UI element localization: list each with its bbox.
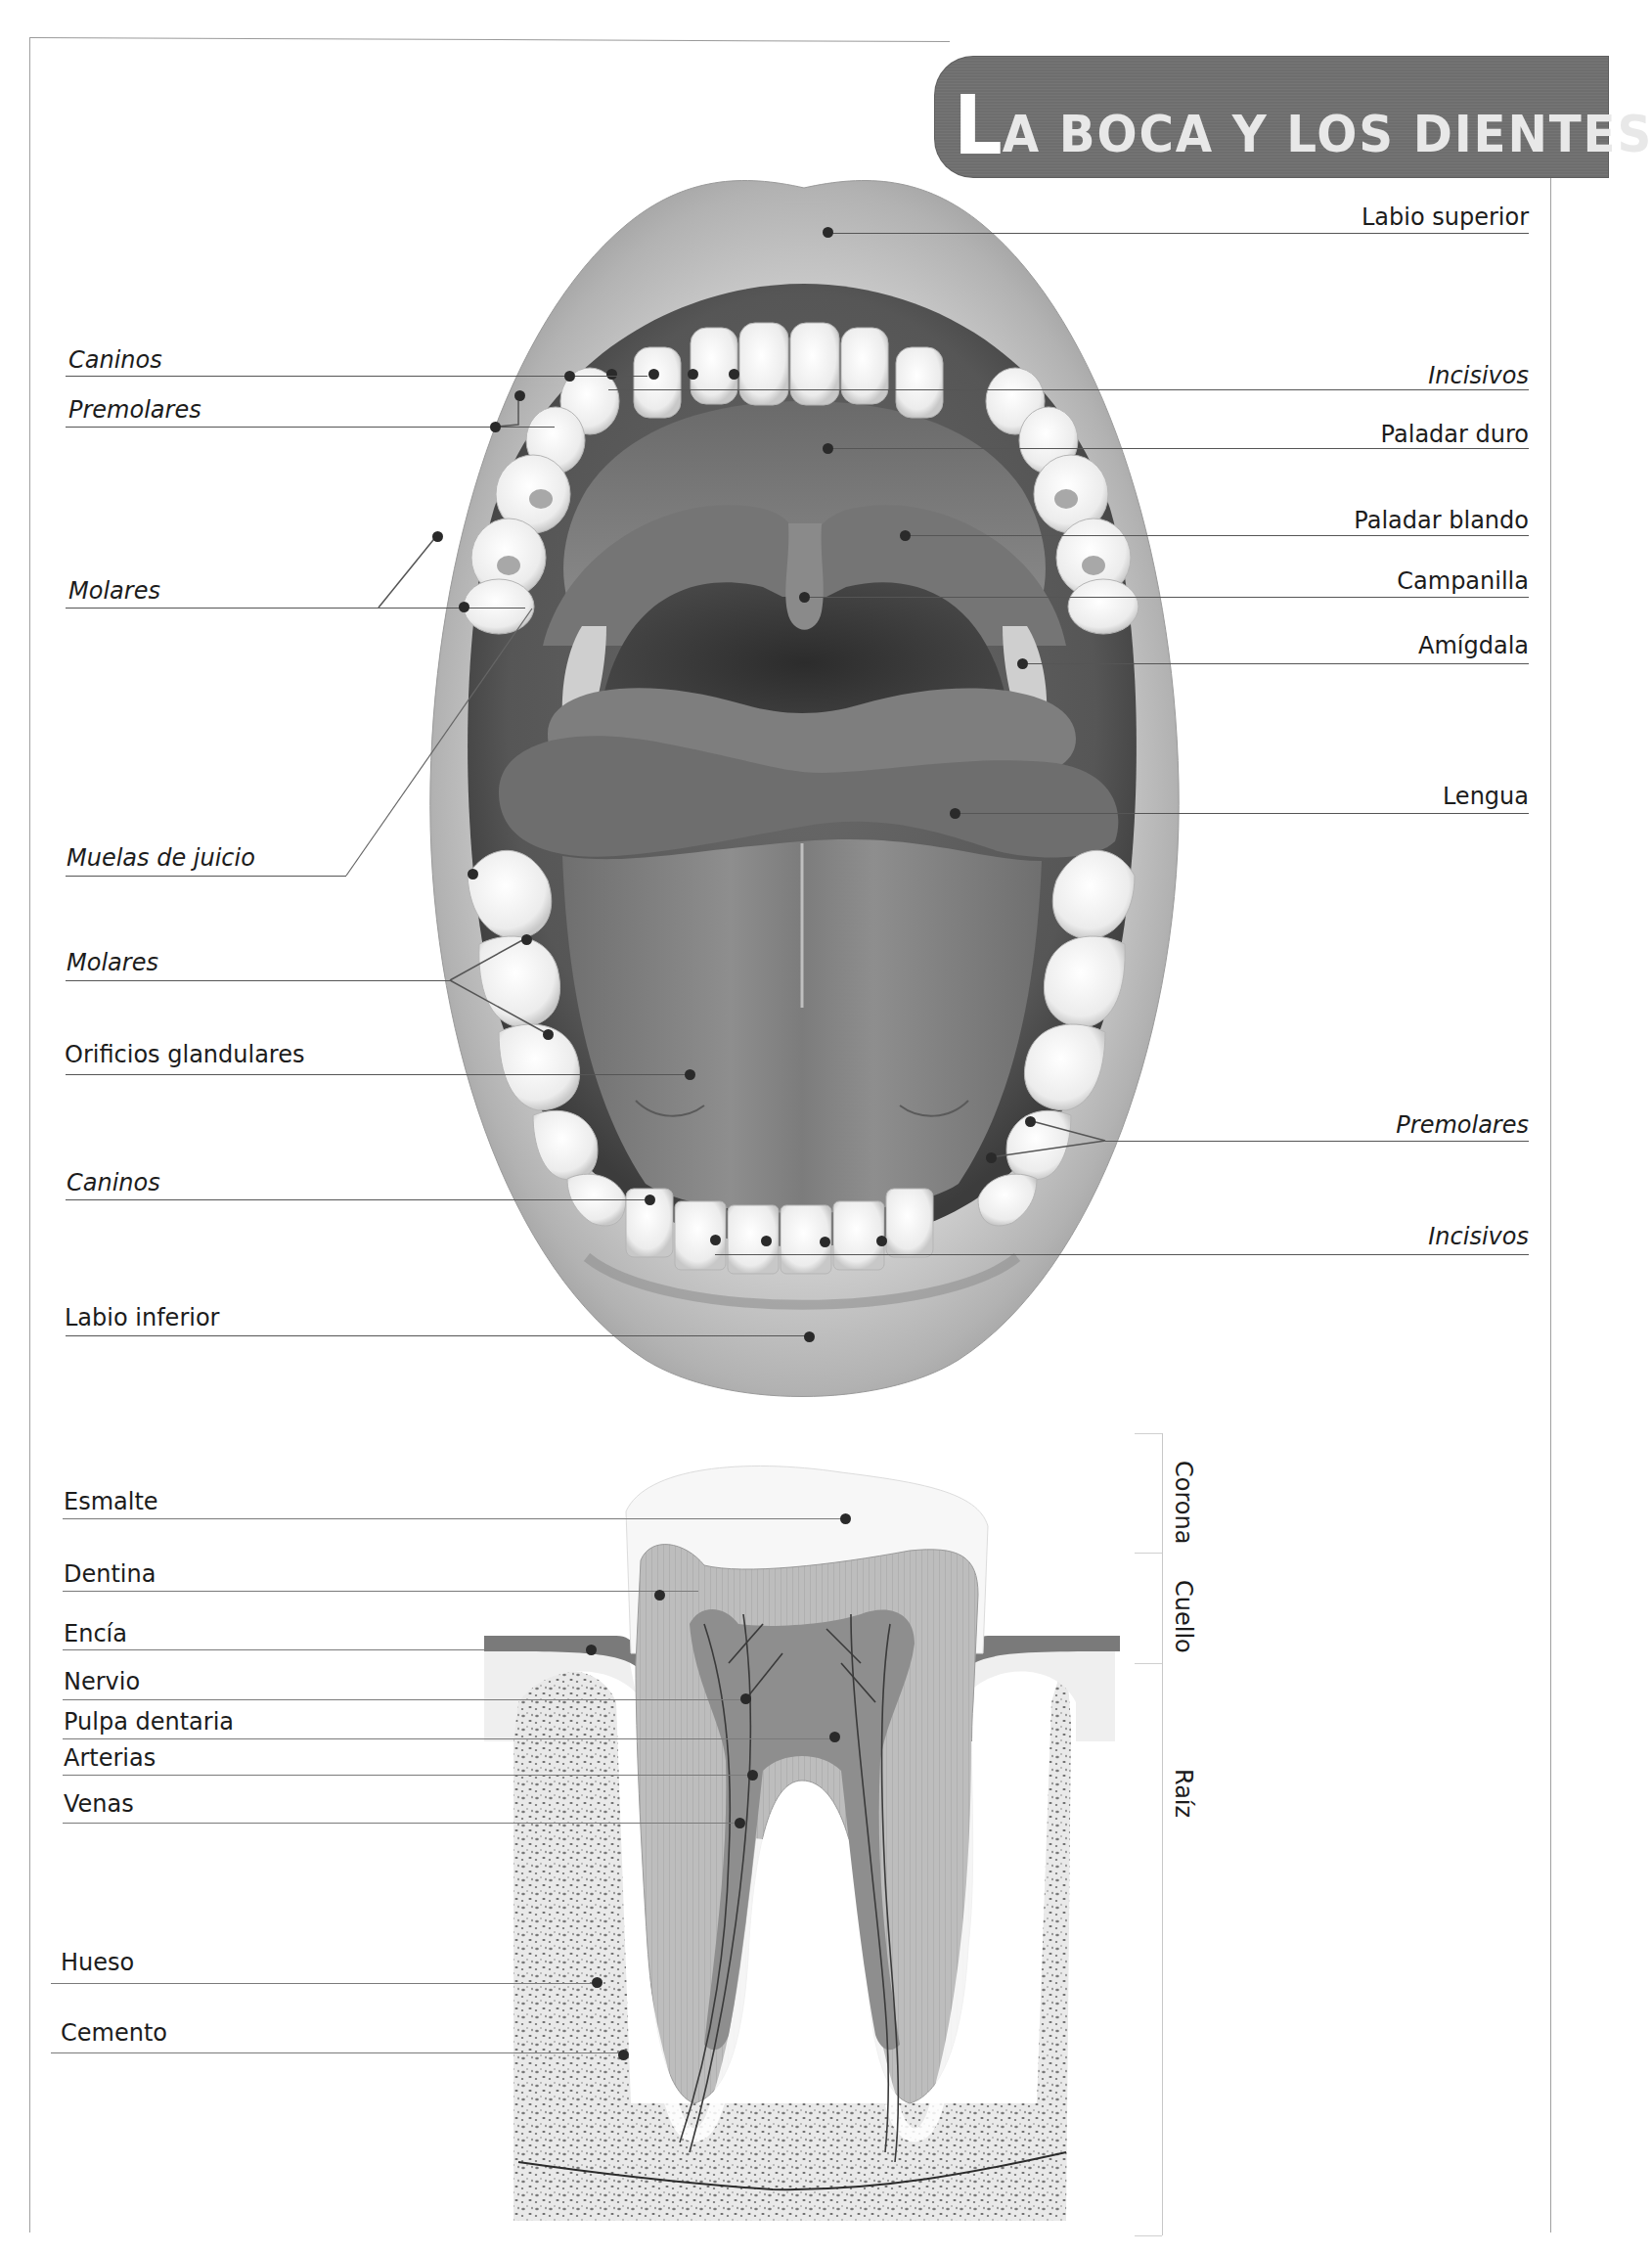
section-divider [1135,1433,1162,1434]
pointer-dot [654,1590,665,1601]
pointer-dot [521,934,532,945]
pointer-dot [543,1029,554,1040]
leader-venas [63,1823,739,1824]
label-nervio: Nervio [64,1668,140,1695]
label-caninos-inferior: Caninos [67,1169,160,1196]
pointer-dot [618,2050,629,2060]
leader-branch-molares-inferior [0,0,1601,2255]
label-venas: Venas [64,1790,134,1818]
pointer-dot [685,1069,695,1080]
leader-labio-inferior [66,1335,809,1336]
section-label-cuello: Cuello [1170,1580,1197,1653]
leader-encia [63,1649,591,1650]
label-hueso: Hueso [61,1949,134,1976]
leader-cemento [51,2052,623,2053]
section-label-raiz: Raíz [1170,1769,1197,1818]
label-encia: Encía [64,1620,127,1647]
leader-orificios-glandulares [66,1074,692,1075]
pointer-dot [840,1513,851,1524]
leader-esmalte [63,1518,845,1519]
leader-nervio [63,1699,745,1700]
label-cemento: Cemento [61,2019,167,2047]
leader-hueso [51,1983,597,1984]
label-dentina: Dentina [64,1560,156,1588]
leader-dentina [63,1591,698,1592]
tooth-section-bracket [1162,1433,1163,2235]
leader-caninos-inferior [66,1199,649,1200]
pointer-dot [592,1977,603,1988]
pointer-dot [829,1732,840,1742]
pointer-dot [804,1331,815,1342]
pointer-dot [735,1818,745,1828]
label-esmalte: Esmalte [64,1488,158,1515]
section-label-corona: Corona [1170,1461,1197,1544]
pointer-dot [747,1770,758,1781]
leader-pulpa-dentaria [63,1738,835,1739]
pointer-dot [645,1195,655,1205]
label-pulpa-dentaria: Pulpa dentaria [64,1708,234,1736]
label-arterias: Arterias [64,1744,156,1772]
label-molares-inferior: Molares [67,949,158,976]
pointer-dot [740,1693,751,1704]
section-divider [1135,1663,1162,1664]
pointer-dot [586,1645,597,1655]
leader-arterias [63,1775,752,1776]
label-labio-inferior: Labio inferior [65,1304,219,1331]
label-orificios-glandulares: Orificios glandulares [65,1041,304,1068]
section-divider [1135,2235,1162,2236]
section-divider [1135,1553,1162,1554]
